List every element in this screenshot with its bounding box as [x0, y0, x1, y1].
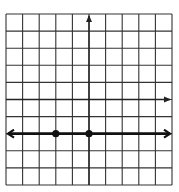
- data-point: [85, 130, 92, 137]
- coordinate-graph: [0, 0, 179, 192]
- data-point: [52, 130, 59, 137]
- axes: [6, 16, 170, 185]
- plotted-series: [8, 130, 170, 137]
